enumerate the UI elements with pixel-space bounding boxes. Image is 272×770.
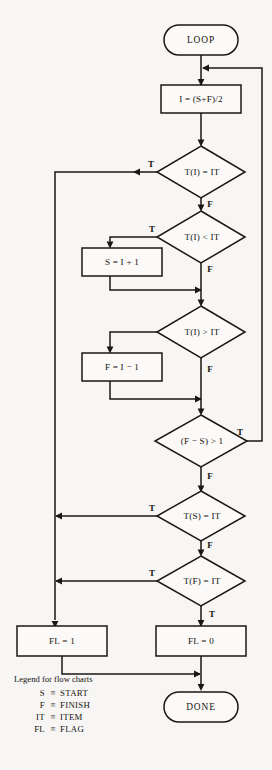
node-mid: I = (S+F)/2 (161, 85, 241, 113)
arrowhead-eqS-true (55, 513, 62, 520)
edge-gt-true-to-setF (110, 332, 157, 351)
setF-process-label: F = I − 1 (105, 362, 139, 372)
edge-setF-rejoin (110, 381, 201, 399)
setS-process-label: S = I + 1 (105, 257, 139, 267)
node-eqF: T(F) = IT (157, 556, 245, 606)
arrowhead-flag0-to-done (198, 684, 205, 691)
eqS-decision-label: T(S) = IT (183, 511, 220, 521)
eq-decision-label: T(I) = IT (184, 167, 219, 177)
eqF-decision-label: T(F) = IT (183, 576, 220, 586)
arrowhead-eq-true (133, 169, 140, 176)
flag1-process-label: FL = 1 (49, 636, 75, 646)
node-span: (F − S) > 1 (155, 415, 247, 467)
node-eqS: T(S) = IT (157, 491, 245, 541)
arrowhead-flag1-join (194, 671, 201, 678)
node-done: DONE (164, 692, 238, 722)
branch-label-span-true: T (237, 427, 243, 437)
node-setS: S = I + 1 (82, 248, 162, 276)
lt-decision-label: T(I) < IT (184, 232, 219, 242)
span-decision-label: (F − S) > 1 (181, 436, 224, 446)
legend-meaning-1: FINISH (60, 700, 90, 710)
node-flag1: FL = 1 (17, 626, 107, 656)
legend: Legend for flow charts S ≡ START F ≡ FIN… (14, 674, 93, 734)
legend-meaning-0: START (60, 688, 88, 698)
branch-label-eqF-down: T (209, 609, 215, 619)
branch-label-span-false: F (207, 471, 213, 481)
node-gt: T(I) > IT (157, 306, 245, 358)
edge-eq-true-to-left-rail (55, 172, 157, 620)
branch-label-lt-false: F (207, 264, 213, 274)
branch-label-eqF-true: T (149, 568, 155, 578)
arrowhead-eqF-true (55, 578, 62, 585)
flowchart-canvas: LOOP I = (S+F)/2 T(I) = IT T F (0, 0, 272, 770)
branch-label-lt-true: T (149, 224, 155, 234)
loop-terminal-label: LOOP (187, 35, 215, 45)
legend-sep-2: ≡ (51, 712, 56, 722)
branch-label-eqS-true: T (149, 503, 155, 513)
edge-setS-rejoin (110, 276, 201, 290)
legend-meaning-2: ITEM (60, 712, 83, 722)
gt-decision-label: T(I) > IT (184, 327, 219, 337)
legend-symbol-2: IT (36, 712, 45, 722)
legend-symbol-1: F (40, 700, 45, 710)
flag0-process-label: FL = 0 (188, 636, 214, 646)
legend-meaning-3: FLAG (60, 724, 85, 734)
node-flag0: FL = 0 (156, 626, 246, 656)
done-terminal-label: DONE (186, 702, 216, 712)
mid-process-label: I = (S+F)/2 (179, 94, 223, 104)
node-eq: T(I) = IT (157, 146, 245, 198)
branch-label-eq-false: F (207, 199, 213, 209)
branch-label-eq-true: T (148, 159, 154, 169)
branch-label-eqS-false: F (207, 540, 213, 550)
flowchart-page: LOOP I = (S+F)/2 T(I) = IT T F (0, 0, 272, 770)
legend-symbol-3: FL (34, 724, 45, 734)
branch-label-gt-false: F (207, 364, 213, 374)
node-lt: T(I) < IT (157, 211, 245, 263)
legend-sep-0: ≡ (51, 688, 56, 698)
edge-flag1-to-done (62, 656, 200, 674)
legend-sep-1: ≡ (51, 700, 56, 710)
node-loop: LOOP (164, 25, 238, 55)
node-setF: F = I − 1 (82, 353, 162, 381)
legend-symbol-0: S (40, 688, 45, 698)
edge-lt-true-to-setS (110, 237, 157, 246)
legend-sep-3: ≡ (51, 724, 56, 734)
legend-title: Legend for flow charts (14, 674, 93, 684)
